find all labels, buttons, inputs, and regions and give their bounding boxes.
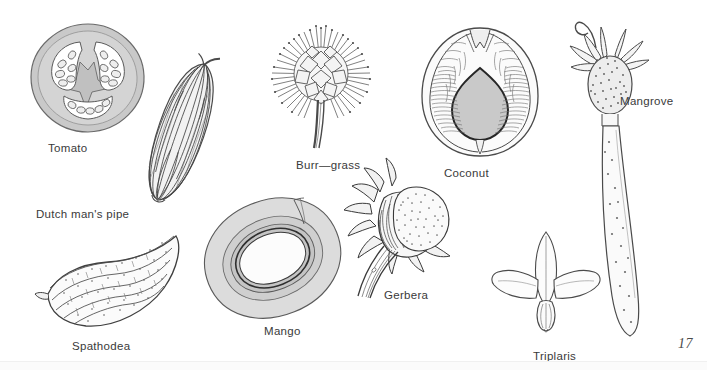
dutchmans-pipe-fruit-icon bbox=[126, 52, 236, 212]
label-dutchmans-pipe: Dutch man's pipe bbox=[36, 209, 129, 221]
triplaris-winged-fruit-icon bbox=[490, 228, 602, 348]
figure-burr-grass bbox=[262, 24, 380, 154]
spathodea-pod-icon bbox=[34, 232, 194, 338]
figure-dutchmans-pipe bbox=[126, 52, 236, 212]
label-mango: Mango bbox=[264, 326, 301, 338]
botanical-plate: Tomato bbox=[0, 0, 707, 370]
coconut-cross-section-icon bbox=[416, 22, 544, 162]
page-number: 17 bbox=[678, 336, 693, 352]
label-spathodea: Spathodea bbox=[72, 341, 130, 353]
figure-spathodea bbox=[34, 232, 194, 338]
figure-mango bbox=[198, 196, 348, 322]
figure-triplaris bbox=[490, 228, 602, 348]
mango-cross-section-icon bbox=[198, 196, 348, 322]
label-tomato: Tomato bbox=[48, 143, 88, 155]
gerbera-flowerhead-icon bbox=[340, 170, 470, 300]
figure-gerbera bbox=[340, 170, 470, 300]
figure-coconut bbox=[416, 22, 544, 162]
burr-grass-spikelet-icon bbox=[262, 24, 380, 154]
page-bottom-edge bbox=[0, 361, 707, 370]
label-gerbera: Gerbera bbox=[384, 290, 428, 302]
label-mangrove: Mangrove bbox=[620, 96, 674, 108]
